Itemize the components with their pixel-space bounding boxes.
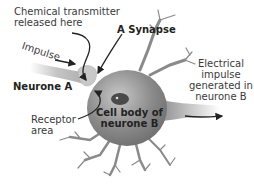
label-electrical-impulse: Electrical impulse generated in neurone … bbox=[189, 58, 253, 102]
label-receptor-area: Receptor area bbox=[31, 114, 76, 136]
label-neurone-a: Neurone A bbox=[13, 81, 72, 92]
synapse-diagram: Chemical transmitter released here Impul… bbox=[0, 0, 254, 187]
neurone-b-axon bbox=[158, 100, 220, 122]
nucleus bbox=[111, 93, 129, 105]
label-chemical-transmitter: Chemical transmitter released here bbox=[14, 6, 120, 28]
label-synapse: A Synapse bbox=[117, 24, 176, 35]
label-cell-body: Cell body of neurone B bbox=[96, 107, 163, 129]
